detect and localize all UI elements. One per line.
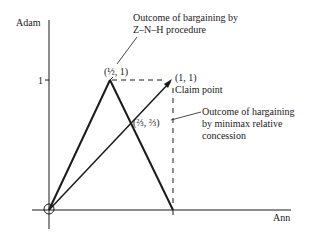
znh-annotation-line1: Outcome of bargaining by: [133, 12, 238, 23]
claim-coords-label: (1, 1): [175, 72, 197, 83]
znh-annotation-line2: Z–N–H procedure: [133, 24, 206, 35]
minimax-annotation-line3: concession: [202, 130, 246, 141]
minimax-point-label: (⅔, ⅔): [133, 117, 160, 128]
znh-leader: [117, 37, 137, 64]
frontier-left-edge: [49, 80, 110, 210]
znh-point-label: (½, 1): [104, 66, 128, 77]
minimax-annotation-line2: by minimax relative: [202, 118, 283, 129]
claim-line: [49, 82, 170, 210]
y-tick-label: 1: [38, 75, 43, 86]
frontier-right-edge: [110, 80, 173, 210]
minimax-leader: [171, 112, 201, 120]
y-axis-label: Adam: [16, 17, 40, 28]
x-axis-label: Ann: [273, 212, 290, 223]
claim-point-label: Claim point: [175, 84, 223, 95]
minimax-annotation-line1: Outcome of hargaining: [202, 106, 295, 117]
